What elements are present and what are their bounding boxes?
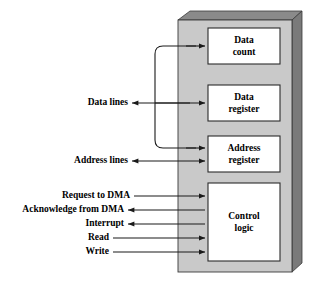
body-top-face xyxy=(178,11,302,20)
body-side-face xyxy=(292,11,302,272)
signal-label-address-lines: Address lines xyxy=(74,156,128,166)
block-label-line1: Address xyxy=(227,143,260,155)
diagram-canvas xyxy=(0,0,318,294)
block-label-data-register: Data register xyxy=(229,92,260,115)
block-label-line1: Control xyxy=(228,211,260,223)
block-label-line1: Data xyxy=(229,92,260,104)
signal-label-write: Write xyxy=(85,247,109,257)
block-label-line2: count xyxy=(233,46,256,58)
block-label-address-register: Address register xyxy=(227,143,260,166)
block-label-data-count: Data count xyxy=(233,35,256,58)
block-label-line2: register xyxy=(227,154,260,166)
block-label-control-logic: Control logic xyxy=(228,211,260,234)
signal-label-interrupt: Interrupt xyxy=(85,219,124,229)
block-label-line2: register xyxy=(229,103,260,115)
signal-label-request-to-dma: Request to DMA xyxy=(62,191,130,201)
dma-block-diagram: Data count Data register Address registe… xyxy=(0,0,318,294)
block-label-line2: logic xyxy=(228,222,260,234)
signal-label-data-lines: Data lines xyxy=(88,98,128,108)
signal-label-acknowledge-from-dma: Acknowledge from DMA xyxy=(22,205,124,215)
signal-label-read: Read xyxy=(88,233,109,243)
block-label-line1: Data xyxy=(233,35,256,47)
